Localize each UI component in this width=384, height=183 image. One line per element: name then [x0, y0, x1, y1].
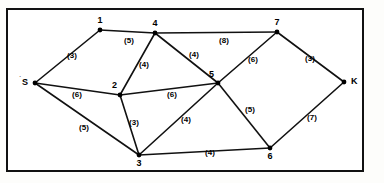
- edge-weight-label-3-6: (4): [205, 148, 215, 157]
- node-dot-K[interactable]: [342, 80, 347, 85]
- node-label-K: K: [351, 76, 358, 86]
- node-label-3: 3: [136, 158, 141, 168]
- source-tick-mark: `: [19, 75, 21, 82]
- node-labels-layer: S1472536K`: [19, 15, 358, 168]
- node-dot-5[interactable]: [216, 81, 221, 86]
- node-label-6: 6: [267, 151, 272, 161]
- edge-1-4: [100, 30, 155, 33]
- node-label-5: 5: [209, 69, 214, 79]
- edge-5-6: [218, 83, 270, 148]
- edge-weight-label-4-7: (8): [219, 36, 229, 45]
- node-dot-3[interactable]: [137, 153, 142, 158]
- node-dot-2[interactable]: [118, 93, 123, 98]
- edge-3-5: [139, 83, 218, 155]
- node-dot-6[interactable]: [268, 146, 273, 151]
- edge-weight-label-S-1: (3): [67, 51, 77, 60]
- edge-weight-label-S-2: (6): [72, 90, 82, 99]
- node-label-2: 2: [112, 80, 117, 90]
- edge-weight-label-5-6: (5): [245, 105, 255, 114]
- edge-weight-label-6-K: (7): [307, 113, 317, 122]
- edge-weight-label-7-K: (3): [305, 54, 315, 63]
- edge-weight-label-2-3: (3): [129, 118, 139, 127]
- node-label-S: S: [22, 77, 28, 87]
- edge-weight-label-2-5: (6): [167, 90, 177, 99]
- network-graph: (3)(6)(5)(5)(8)(4)(4)(6)(3)(4)(4)(6)(5)(…: [0, 0, 384, 183]
- node-label-1: 1: [97, 15, 102, 25]
- node-label-7: 7: [274, 17, 279, 27]
- node-dot-S[interactable]: [33, 81, 38, 86]
- edge-weight-label-S-3: (5): [79, 123, 89, 132]
- diagram-screenshot: (3)(6)(5)(5)(8)(4)(4)(6)(3)(4)(4)(6)(5)(…: [0, 0, 384, 183]
- edge-4-7: [155, 32, 277, 33]
- node-dot-4[interactable]: [153, 31, 158, 36]
- edge-weight-label-1-4: (5): [124, 36, 134, 45]
- node-dot-1[interactable]: [98, 28, 103, 33]
- edge-weight-label-4-2: (4): [139, 60, 149, 69]
- edge-weight-label-5-7: (6): [248, 55, 258, 64]
- node-dot-7[interactable]: [275, 30, 280, 35]
- edge-weight-label-3-5: (4): [181, 115, 191, 124]
- node-label-4: 4: [152, 18, 157, 28]
- edge-weight-label-4-5: (4): [189, 50, 199, 59]
